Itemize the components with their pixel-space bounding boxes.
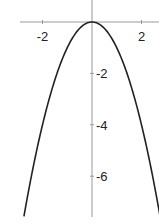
- plot-area: -22 -2-4-6: [0, 0, 159, 224]
- x-tick-label: -2: [37, 29, 49, 44]
- y-tick-label: -6: [96, 169, 108, 184]
- parabola-curve: [24, 22, 159, 216]
- y-tick-label: -4: [96, 118, 108, 133]
- y-tick-label: -2: [96, 66, 108, 81]
- y-ticks: -2-4-6: [90, 66, 108, 184]
- x-tick-label: 2: [138, 29, 145, 44]
- x-ticks: -22: [37, 20, 145, 44]
